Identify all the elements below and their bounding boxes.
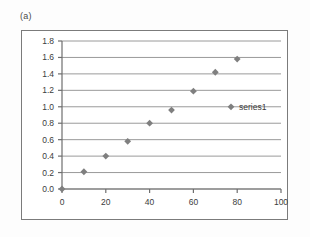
scatter-plot: 0.00.20.40.60.81.01.21.41.61.8 020406080…	[22, 31, 289, 221]
data-point	[124, 138, 131, 145]
y-tick-label: 1.0	[42, 102, 54, 112]
data-point	[234, 56, 241, 63]
data-point-group	[59, 56, 241, 193]
data-point	[212, 69, 219, 76]
x-tick-labels-group: 020406080100	[60, 197, 289, 207]
y-tick-label: 0.2	[42, 168, 54, 178]
figure-container: (a) 0.00.20.40.60.81.01.21.41.61.8 02040…	[0, 0, 310, 237]
y-tick-label: 0.6	[42, 135, 54, 145]
y-tick-label: 1.4	[42, 69, 54, 79]
y-tick-label: 0.4	[42, 151, 54, 161]
plot-frame: 0.00.20.40.60.81.01.21.41.61.8 020406080…	[21, 30, 288, 220]
data-point	[190, 88, 197, 95]
data-point	[59, 186, 66, 193]
x-tick-label: 40	[145, 197, 155, 207]
x-tick-label: 0	[60, 197, 65, 207]
y-tick-labels-group: 0.00.20.40.60.81.01.21.41.61.8	[42, 36, 54, 194]
legend-marker	[228, 103, 235, 110]
data-point	[168, 107, 175, 114]
y-tick-label: 1.8	[42, 36, 54, 46]
panel-label: (a)	[20, 11, 32, 21]
legend-label: series1	[239, 102, 267, 112]
x-tick-label: 80	[232, 197, 242, 207]
data-point	[102, 153, 109, 160]
legend: series1	[228, 102, 267, 112]
y-tick-label: 0.8	[42, 118, 54, 128]
x-tick-label: 20	[101, 197, 111, 207]
data-point	[81, 168, 88, 175]
x-tick-label: 100	[274, 197, 288, 207]
y-tick-label: 0.0	[42, 184, 54, 194]
y-tick-label: 1.6	[42, 52, 54, 62]
data-point	[146, 120, 153, 127]
y-tick-label: 1.2	[42, 85, 54, 95]
x-tick-label: 60	[189, 197, 199, 207]
x-tick-group	[62, 189, 281, 193]
gridlines-group	[62, 41, 281, 189]
